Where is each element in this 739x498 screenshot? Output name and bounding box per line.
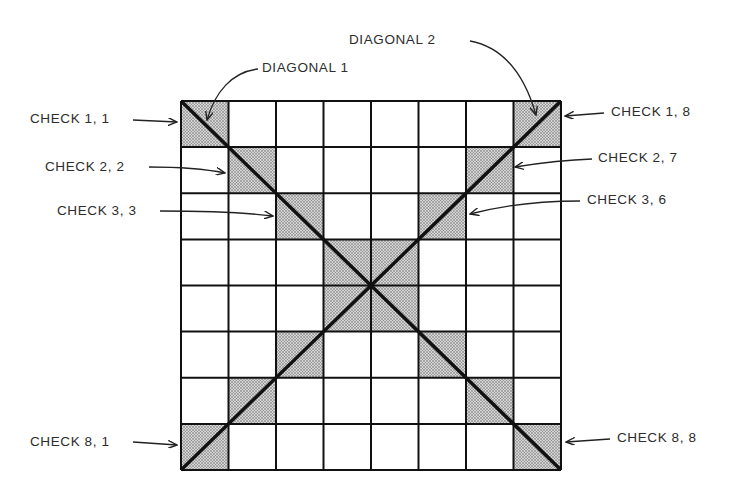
check-1-8-label: CHECK 1, 8 bbox=[611, 104, 691, 119]
check-3-6-label: CHECK 3, 6 bbox=[587, 192, 667, 207]
check-8-8-label: CHECK 8, 8 bbox=[617, 430, 697, 445]
check-8-1-label: CHECK 8, 1 bbox=[30, 434, 110, 449]
diagonal-2-label: DIAGONAL 2 bbox=[349, 32, 436, 47]
checkerboard-diagonal-diagram bbox=[0, 0, 739, 498]
check-2-2-label: CHECK 2, 2 bbox=[45, 159, 125, 174]
check-2-7-label: CHECK 2, 7 bbox=[598, 150, 678, 165]
diagonal-1-label: DIAGONAL 1 bbox=[262, 60, 349, 75]
check-3-3-label: CHECK 3, 3 bbox=[57, 203, 137, 218]
check-1-1-label: CHECK 1, 1 bbox=[30, 111, 110, 126]
